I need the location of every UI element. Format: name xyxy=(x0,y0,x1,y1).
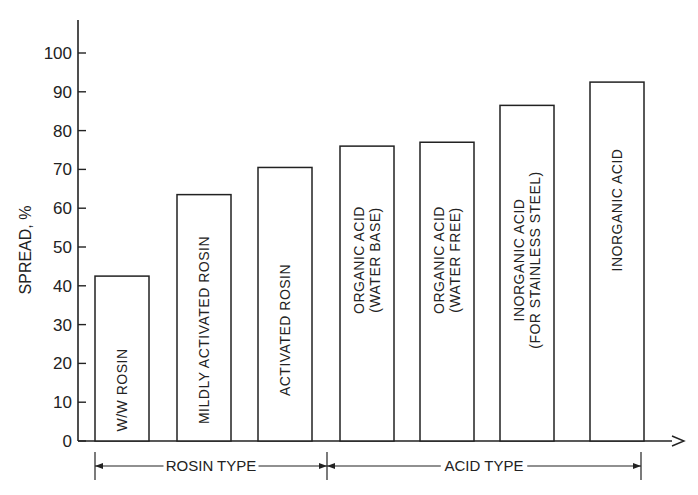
y-tick-label: 20 xyxy=(53,354,72,373)
bar-label: (WATER BASE) xyxy=(367,207,383,313)
bar-chart: 0102030405060708090100SPREAD, %W/W ROSIN… xyxy=(0,0,698,495)
y-tick-label: 80 xyxy=(53,122,72,141)
bar-label: INORGANIC ACID xyxy=(511,199,527,322)
y-tick-label: 100 xyxy=(44,44,72,63)
arrow-right-icon xyxy=(319,463,327,469)
bar-label: ACTIVATED ROSIN xyxy=(277,264,293,396)
y-tick-label: 90 xyxy=(53,83,72,102)
bar-label: MILDLY ACTIVATED ROSIN xyxy=(196,236,212,424)
y-tick-label: 0 xyxy=(63,432,72,451)
y-axis-label: SPREAD, % xyxy=(17,206,34,295)
bar-label: ORGANIC ACID xyxy=(351,206,367,314)
group-label: ROSIN TYPE xyxy=(166,457,257,474)
bar-label: W/W ROSIN xyxy=(114,348,130,431)
y-tick-label: 60 xyxy=(53,199,72,218)
bar-label: ORGANIC ACID xyxy=(431,206,447,314)
bar-label: (WATER FREE) xyxy=(447,207,463,313)
arrow-left-icon xyxy=(95,463,103,469)
y-tick-label: 30 xyxy=(53,316,72,335)
x-axis-arrow-icon xyxy=(672,436,684,446)
y-tick-label: 40 xyxy=(53,277,72,296)
y-tick-label: 70 xyxy=(53,160,72,179)
arrow-left-icon xyxy=(327,463,335,469)
group-label: ACID TYPE xyxy=(445,457,524,474)
bar-label: (FOR STAINLESS STEEL) xyxy=(527,171,543,349)
bar-label: INORGANIC ACID xyxy=(609,149,625,272)
arrow-right-icon xyxy=(633,463,641,469)
y-tick-label: 50 xyxy=(53,238,72,257)
y-tick-label: 10 xyxy=(53,393,72,412)
